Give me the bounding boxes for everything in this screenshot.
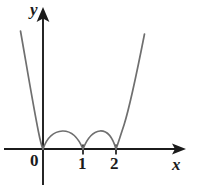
- tick-label-one: 1: [78, 155, 87, 172]
- curve-arch-second: [83, 131, 116, 149]
- tick-label-two: 2: [110, 155, 119, 172]
- curve-left-branch: [21, 31, 44, 149]
- curve-right-branch: [116, 34, 145, 149]
- graph-figure: y x 0 1 2: [0, 0, 197, 185]
- tick-label-origin: 0: [30, 152, 39, 169]
- curve-arch-first: [43, 131, 83, 149]
- x-axis-label: x: [172, 156, 181, 173]
- y-axis-label: y: [30, 1, 38, 18]
- curve-group: [21, 31, 145, 149]
